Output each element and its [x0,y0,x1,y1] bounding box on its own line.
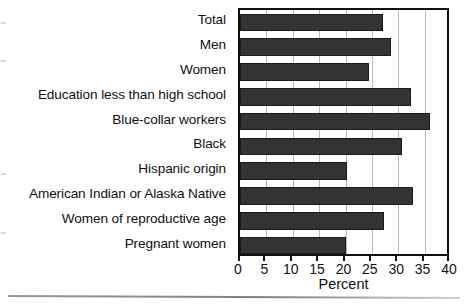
x-tick-label: 40 [434,262,464,276]
bar [240,88,411,106]
bar [240,14,383,32]
category-label: Women [180,63,226,77]
category-label: Education less than high school [38,88,226,102]
x-axis-title: Percent [238,277,449,292]
category-label: Black [193,137,226,151]
bar [240,237,346,255]
bar [240,38,391,56]
bar [240,113,430,131]
category-label: Blue-collar workers [112,113,226,127]
bar [240,138,402,156]
bars [240,10,447,254]
bar [240,187,413,205]
category-label: Men [200,38,226,52]
bar [240,162,347,180]
category-axis-labels: TotalMenWomenEducation less than high sc… [0,8,232,256]
plot-area [238,8,449,256]
category-label: Women of reproductive age [62,212,226,226]
bar-chart-figure: TotalMenWomenEducation less than high sc… [0,0,465,305]
category-label: Hispanic origin [138,162,226,176]
bar [240,212,384,230]
category-label: American Indian or Alaska Native [29,187,226,201]
page-divider-rule [8,295,460,299]
category-label: Total [198,13,226,27]
scan-edge-mark [1,232,6,234]
bar [240,63,369,81]
category-label: Pregnant women [125,237,226,251]
scan-edge-mark [1,60,6,62]
scan-edge-mark [1,173,6,175]
scan-edge-mark [1,22,6,24]
